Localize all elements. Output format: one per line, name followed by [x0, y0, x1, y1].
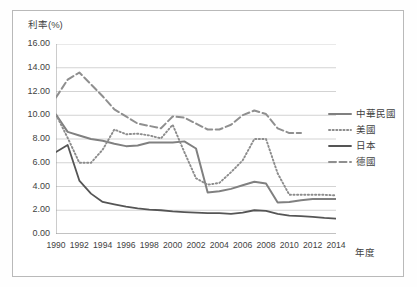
legend-item[interactable]: 中華民國: [328, 106, 402, 122]
legend-item-label: 日本: [356, 141, 376, 151]
y-tick-label: 16.00: [16, 38, 50, 48]
y-tick-label: 10.00: [16, 109, 50, 119]
series-line: [56, 145, 336, 219]
y-tick-label: 4.00: [16, 181, 50, 191]
x-tick-label: 1990: [43, 240, 69, 250]
y-tick-label: 2.00: [16, 204, 50, 214]
legend-item[interactable]: 德國: [328, 154, 402, 170]
legend-item-label: 中華民國: [356, 109, 396, 119]
x-tick-label: 1994: [90, 240, 116, 250]
x-tick-label: 2012: [300, 240, 326, 250]
legend-item-label: 美國: [356, 125, 376, 135]
legend-line-swatch-icon: [328, 125, 352, 135]
x-tick-label: 2002: [183, 240, 209, 250]
chart-figure: 利率(%) 年度 0.002.004.006.008.0010.0012.001…: [0, 0, 417, 287]
legend-line-swatch-icon: [328, 109, 352, 119]
legend-item[interactable]: 日本: [328, 138, 402, 154]
x-tick-label: 2006: [230, 240, 256, 250]
x-tick-label: 1992: [66, 240, 92, 250]
legend-line-swatch-icon: [328, 157, 352, 167]
x-tick-label: 2000: [160, 240, 186, 250]
legend-item-label: 德國: [356, 157, 376, 167]
x-tick-label: 2008: [253, 240, 279, 250]
series-line: [56, 73, 301, 134]
series-line: [56, 115, 336, 203]
y-tick-label: 14.00: [16, 62, 50, 72]
y-axis-title: 利率(%): [28, 17, 63, 31]
chart-legend: 中華民國美國日本德國: [328, 106, 402, 170]
y-tick-label: 6.00: [16, 157, 50, 167]
x-axis-title: 年度: [355, 245, 375, 259]
x-tick-label: 2004: [206, 240, 232, 250]
series-line: [56, 115, 336, 196]
legend-item[interactable]: 美國: [328, 122, 402, 138]
x-tick-label: 1996: [113, 240, 139, 250]
x-tick-label: 2014: [323, 240, 349, 250]
x-tick-label: 1998: [136, 240, 162, 250]
y-tick-label: 0.00: [16, 228, 50, 238]
plot-svg: [56, 44, 336, 234]
y-tick-label: 8.00: [16, 133, 50, 143]
plot-area: [56, 44, 336, 234]
legend-line-swatch-icon: [328, 141, 352, 151]
y-tick-label: 12.00: [16, 86, 50, 96]
x-tick-label: 2010: [276, 240, 302, 250]
